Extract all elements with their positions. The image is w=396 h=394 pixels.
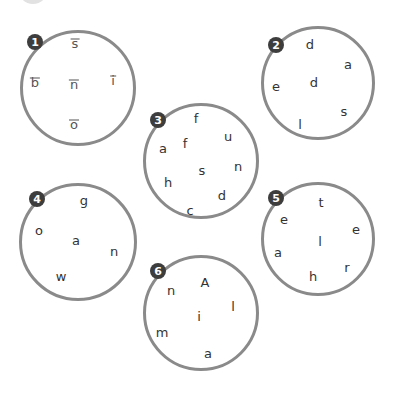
letter: h xyxy=(164,176,172,189)
letter: s xyxy=(72,37,79,50)
letter: b xyxy=(31,76,39,89)
decorative-tab xyxy=(18,0,48,4)
letter: a xyxy=(274,246,282,259)
number-badge-6: 6 xyxy=(150,263,166,279)
letter: n xyxy=(234,160,242,173)
letter: A xyxy=(201,276,210,289)
number-badge-1: 1 xyxy=(27,34,43,50)
letter: l xyxy=(318,235,322,248)
letter: i xyxy=(111,74,115,87)
letter: e xyxy=(352,223,360,236)
letter: d xyxy=(306,38,314,51)
letter: a xyxy=(72,234,80,247)
letter: h xyxy=(309,270,317,283)
number-badge-4: 4 xyxy=(29,191,45,207)
letter: e xyxy=(280,213,288,226)
letter: g xyxy=(80,194,88,207)
letter: i xyxy=(197,310,201,323)
number-badge-5: 5 xyxy=(268,190,284,206)
letter: a xyxy=(344,58,352,71)
letter: m xyxy=(156,326,169,339)
letter: d xyxy=(310,76,318,89)
letter: s xyxy=(199,164,206,177)
letter: r xyxy=(344,261,349,274)
letter: w xyxy=(56,270,67,283)
letter: n xyxy=(110,245,118,258)
letter: o xyxy=(35,224,43,237)
letter: e xyxy=(272,80,280,93)
letter: l xyxy=(298,118,302,131)
letter: f xyxy=(183,137,188,150)
letter: s xyxy=(341,105,348,118)
letter: t xyxy=(318,196,323,209)
letter: a xyxy=(204,347,212,360)
letter: o xyxy=(70,118,78,131)
number-badge-3: 3 xyxy=(150,112,166,128)
letter: l xyxy=(231,300,235,313)
letter: d xyxy=(218,189,226,202)
number-badge-2: 2 xyxy=(268,37,284,53)
letter: c xyxy=(186,204,193,217)
letter: u xyxy=(224,130,232,143)
letter: f xyxy=(194,112,199,125)
letter: n xyxy=(70,78,78,91)
letter: n xyxy=(167,284,175,297)
letter: a xyxy=(159,142,167,155)
